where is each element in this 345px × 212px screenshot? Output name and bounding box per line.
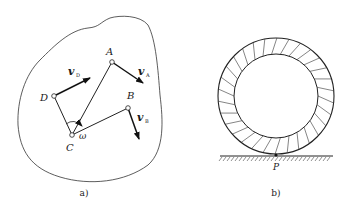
ring-hatch-line — [318, 96, 334, 103]
label-D: D — [39, 92, 48, 103]
ground-hatch-line — [243, 157, 246, 161]
ground-hatch-line — [239, 157, 242, 161]
ground-hatch-line — [307, 157, 310, 161]
point-C-marker — [70, 133, 75, 138]
ring-hatch-line — [297, 132, 299, 149]
link-CD — [54, 96, 72, 135]
ground-hatch-line — [287, 157, 290, 161]
ground-hatch-line — [247, 157, 250, 161]
label-A: A — [105, 46, 113, 57]
ring-hatch-line — [218, 89, 234, 96]
ground-hatching — [219, 157, 330, 161]
ground-hatch-line — [231, 157, 234, 161]
label-vA-subscript: A — [145, 72, 150, 78]
ring-inner-circle — [234, 54, 318, 138]
label-vB-symbol: v — [137, 111, 144, 124]
ring-hatch-line — [310, 121, 319, 136]
ring-hatch-line — [263, 138, 272, 153]
ring-hatch-line — [241, 132, 255, 142]
figure: A B C D ω v D v A v B a) P b) — [0, 0, 345, 212]
ground-hatch-line — [327, 157, 330, 161]
ground-hatch-line — [235, 157, 238, 161]
ring-outer-circle — [218, 38, 334, 154]
figure-b: P b) — [218, 38, 334, 198]
ground-hatch-line — [251, 157, 254, 161]
label-C: C — [66, 142, 74, 153]
ground-hatch-line — [263, 157, 266, 161]
ground-hatch-line — [315, 157, 318, 161]
ring-hatch-line — [253, 43, 255, 60]
ring-hatch-line — [280, 39, 289, 54]
label-omega: ω — [79, 131, 87, 141]
label-vD-symbol: v — [68, 65, 75, 78]
caption-b: b) — [271, 188, 280, 198]
ring-hatch-line — [304, 127, 309, 143]
ground-hatch-line — [299, 157, 302, 161]
ring-hatch-line — [304, 58, 320, 65]
point-D-marker — [52, 94, 57, 99]
label-B: B — [126, 90, 134, 101]
contact-point-P-marker — [274, 153, 277, 156]
ring — [218, 38, 334, 154]
label-vD-subscript: D — [76, 72, 80, 78]
ground-hatch-line — [279, 157, 282, 161]
ring-hatch-line — [243, 49, 248, 65]
caption-a: a) — [80, 188, 89, 198]
label-vA: v A — [138, 65, 150, 78]
velocity-arrow-D — [54, 78, 90, 96]
label-vA-symbol: v — [138, 65, 145, 78]
ground-hatch-line — [227, 157, 230, 161]
ring-hatch-line — [317, 105, 331, 115]
ground-hatch-line — [291, 157, 294, 161]
ring-hatch-line — [225, 121, 242, 125]
ground-hatch-line — [275, 157, 278, 161]
point-A-marker — [110, 60, 115, 65]
point-B-marker — [126, 106, 131, 111]
ground-hatch-line — [271, 157, 274, 161]
ring-hatch-line — [263, 39, 265, 56]
ring-hatch-line — [218, 101, 235, 105]
ground-hatch-line — [303, 157, 306, 161]
ground-hatch-line — [283, 157, 286, 161]
ground-hatch-line — [255, 157, 258, 161]
ring-hatch-line — [310, 68, 327, 72]
ring-hatch-line — [252, 136, 263, 149]
ring-hatch-line — [275, 138, 280, 154]
ground-hatch-line — [267, 157, 270, 161]
ground-hatch-line — [311, 157, 314, 161]
ring-hatch-line — [226, 66, 237, 79]
ground-hatch-line — [319, 157, 322, 161]
label-vB: v B — [137, 111, 149, 124]
label-vB-subscript: B — [145, 118, 149, 124]
ring-hatch-line — [297, 50, 311, 60]
ring-hatch-line — [221, 77, 235, 87]
ground-hatch-line — [295, 157, 298, 161]
ring-hatch-line — [233, 57, 242, 72]
ring-hatch-line — [232, 127, 248, 134]
label-P: P — [272, 162, 280, 172]
ring-hatch-line — [289, 43, 300, 56]
ring-hatch-line — [317, 87, 334, 91]
ring-hatch-line — [287, 136, 289, 153]
ground-hatch-line — [323, 157, 326, 161]
ground-hatch-line — [259, 157, 262, 161]
ground-hatch-line — [223, 157, 226, 161]
ring-hatch-line — [272, 38, 277, 54]
ground-hatch-line — [219, 157, 222, 161]
figure-a: A B C D ω v D v A v B a) — [18, 16, 162, 198]
ring-hatch-line — [314, 113, 325, 126]
label-vD: v D — [68, 65, 80, 78]
